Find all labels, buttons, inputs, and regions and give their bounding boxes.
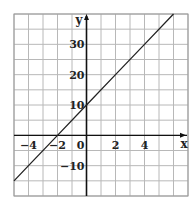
y-tick-label: −10: [60, 160, 85, 173]
y-tick-label: 10: [69, 99, 85, 112]
x-tick-label: −2: [49, 139, 66, 152]
y-axis-label: y: [75, 13, 84, 27]
y-axis-arrow-icon: [84, 14, 89, 20]
x-tick-label: 4: [141, 139, 149, 152]
line-series: [14, 14, 174, 181]
data-series: [14, 14, 174, 181]
grid: [14, 14, 188, 196]
x-tick-label: 2: [112, 139, 120, 152]
x-axis-label: x: [180, 137, 188, 151]
x-tick-label: 0: [77, 139, 85, 152]
line-chart: −4−2024−10102030xy: [0, 0, 196, 209]
y-tick-label: 30: [69, 38, 85, 51]
x-tick-label: −4: [20, 139, 37, 152]
y-tick-label: 20: [69, 69, 85, 82]
